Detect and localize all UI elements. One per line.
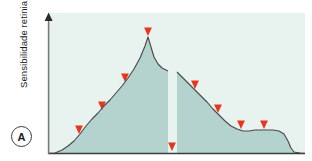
retinal-sensitivity-figure: Sensibilidade retiniana A [0,0,312,161]
y-axis-label: Sensibilidade retiniana [16,0,32,89]
retinal-sensitivity-chart [0,0,312,161]
panel-letter-badge: A [11,126,32,147]
